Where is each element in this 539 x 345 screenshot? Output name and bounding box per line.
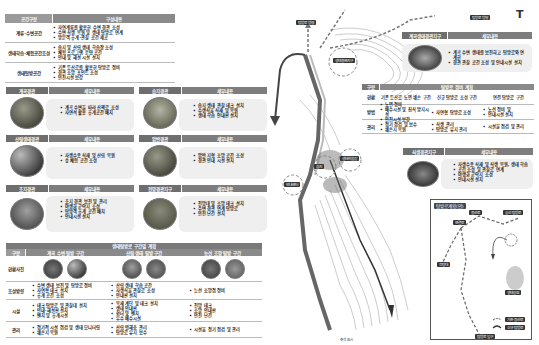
inset-label: 능선 탐방로 [503, 210, 523, 215]
inset-label: 연결로 [453, 220, 466, 225]
cell-item: 안내시설 설치 [483, 112, 534, 117]
cell-item: 시설물 정기 점검 및 관리 [189, 327, 262, 332]
cell-item: 탐방로 유지 보수 [111, 330, 184, 335]
north-arrow-icon: T [516, 8, 524, 21]
card-photo [143, 198, 177, 230]
scale-label: 축척 표시 [340, 337, 353, 342]
site-photo [122, 259, 142, 279]
col-header: 능선 조망 탐방 구간 [183, 249, 262, 256]
card-item: 경관 안내 시설 설치 [193, 158, 263, 163]
card-item: 숲 체험 공간 조성 [60, 158, 130, 163]
site-photo [201, 259, 221, 279]
top-table-row: 생태탐방공간 기존 등산로를 활용한 탐방로 정비 경관 조망 포인트 조성 안… [5, 63, 175, 83]
card-item: 경관 관찰 공간 조성 및 안내시설 설치 [448, 60, 528, 65]
right-top-card: 계곡생태경관지구세부내용 계곡 수변 생태를 보전하고 탐방로와 연계한경관 관… [402, 32, 532, 74]
card-title: 암반경관 [139, 135, 182, 142]
card-item: 자연석 활용 휴게공간 배치 [60, 110, 130, 115]
map-label: 생태경관지구 [333, 58, 355, 63]
card-item: 생태 학습 안내판 설치 [193, 113, 263, 118]
card-photo [10, 97, 44, 129]
bottom-table-header: 구분 계곡 수변 탐방 구간 산림 생태 탐방 구간 능선 조망 탐방 구간 [6, 249, 262, 256]
card-subtitle: 세부내용 [445, 148, 533, 155]
row-item: 안내 및 해설 시설 설치 [53, 55, 175, 60]
map-label: 생태학습장 [340, 156, 359, 161]
col-header: 구분 [362, 84, 380, 90]
inset-label: 등산로 [469, 210, 482, 215]
card-photo [143, 97, 177, 129]
card-viewpoint: 전망경관지구세부내용 전망대 및 조망 데크 설치주변 경관 연계 탐방로안전 … [139, 185, 267, 235]
top-table-row: 생태학습·체험공간조성 습지 및 산림 생태 학습장 조성 체험 프로그램 운영… [5, 43, 175, 63]
card-wetland: 습지경관세부내용 습지 생태 관찰 데크 설치수생식물 식재 및 복원생태 학습… [139, 87, 267, 133]
bottom-table: 생태탐방로 구간별 계획 구분 계곡 수변 탐방 구간 산림 생태 탐방 구간 … [6, 243, 262, 343]
row-label: 관리 [362, 124, 380, 130]
card-item: 계곡 수변 생태를 보전하고 탐방로와 연계한 [448, 50, 528, 60]
card-photo [408, 45, 442, 71]
cell-item: 자연형 탐방로 조성 [431, 110, 482, 115]
site-photo [67, 259, 87, 279]
cell-item: 안내판 설치 [111, 293, 184, 298]
row-label: 방법 [362, 109, 380, 115]
top-table-header-col2: 구성내용 [53, 14, 175, 23]
card-item: 안내시설 설치 [453, 177, 529, 182]
cell-item: 배수시설 및 침식 방지시설 [380, 107, 431, 117]
cell-item: 시설물 점검 및 관리 [483, 124, 534, 129]
table-row: 관리 정기적 시설 점검 및 생태 모니터링훼손지 복원 산림 병해충 관리탐방… [6, 322, 262, 338]
legend-item: 기존 등산로 [505, 317, 525, 322]
card-item: 안전 난간 설치 [193, 211, 263, 216]
card-rock: 암반경관세부내용 암반 지형 조망 공간 조성경관 안내 시설 설치 [139, 135, 267, 181]
top-table-header: 공간구분 구성내용 [5, 14, 175, 23]
route-arrow [275, 54, 305, 120]
right-table-title: 탐방로 정비 계획 [380, 84, 534, 90]
row-label: 생태학습·체험공간조성 [5, 50, 53, 56]
row-label: 현황 [362, 94, 380, 100]
card-photo [10, 198, 44, 230]
cell-item: 우수 배수시설 [111, 316, 184, 321]
inset-label: 생태공원 [505, 290, 521, 295]
top-table: 공간구분 구성내용 계류·수변공간 자연계류를 활용한 수변 경관 조성 수변 … [5, 14, 175, 84]
card-photo [407, 161, 439, 187]
top-table-row: 계류·수변공간 자연계류를 활용한 수변 경관 조성 수변 식생 복원 및 생태… [5, 23, 175, 43]
cell: 연결 탐방로 구간 [483, 95, 534, 100]
card-subtitle: 세부내용 [448, 32, 532, 39]
right-table: 구분 탐방로 정비 계획 현황 기존 등산로 노면 훼손 구간 신규 탐방로 조… [362, 84, 534, 136]
card-title: 식생경관지구 [403, 148, 445, 155]
row-label: 시설 [6, 308, 26, 314]
row-label: 계류·수변공간 [5, 30, 53, 36]
map-label: 탐방로 방향 [470, 15, 490, 20]
table-row: 방법 노면 정비배수시설 및 침식 방지시설안전시설 보강 자연형 탐방로 조성… [362, 104, 534, 120]
site-photo [146, 259, 166, 279]
card-forest: 산림생태경관세부내용 자생수종 식재 및 산림 복원숲 체험 공간 조성 [6, 135, 134, 181]
inset-label: 전망대 [437, 262, 450, 267]
card-title: 습지경관 [139, 87, 182, 94]
card-subtitle: 세부내용 [49, 87, 134, 94]
row-label: 생태탐방공간 [5, 70, 53, 76]
cell-item: 훼손지 복원 [380, 127, 431, 132]
top-table-header-col1: 공간구분 [5, 14, 53, 23]
right-card-vegetation: 식생경관지구세부내용 자생수종 식재 및 식생 복원, 생태 학습공간 조성 및… [403, 148, 533, 190]
right-table-header: 구분 탐방로 정비 계획 [362, 84, 534, 90]
inset-map: 탐방로계획(안) 등산로 능선 탐방로 연결로 전망대 생태공원 탐방로 입구 … [430, 199, 532, 340]
cell: 신규 탐방로 조성 구간 [431, 95, 482, 100]
card-photo [143, 145, 177, 177]
cell: 기존 등산로 노면 훼손 구간 [380, 95, 431, 100]
site-photo [43, 259, 63, 279]
card-title: 초지경관 [6, 185, 49, 192]
card-title: 계곡생태경관지구 [402, 32, 448, 39]
col-header: 산림 생태 탐방 구간 [105, 249, 184, 256]
row-label: 관리 [6, 327, 26, 333]
legend-item: 신규 탐방로 [505, 325, 525, 330]
table-row: 관리 정기 점검 및 보수훼손지 복원 식생 관리탐방로 유지 관리 시설물 점… [362, 120, 534, 134]
inset-label: 탐방로 입구 [475, 334, 495, 339]
card-title: 계곡경관 [6, 87, 49, 94]
row-label: 현황사진 [6, 266, 26, 272]
map-label: 습지 [314, 164, 324, 169]
cell-item: 벤치 및 휴게시설 [32, 313, 105, 318]
col-header: 계곡 수변 탐방 구간 [26, 249, 105, 256]
cell-item: 휴게 공간 조성 [32, 293, 105, 298]
cell-item: 훼손지 복원 [32, 330, 105, 335]
row-label: 조성방향 [6, 288, 26, 294]
row-item: 방문객 휴게·관찰 공간 제공 [53, 35, 175, 40]
card-title: 산림생태경관 [6, 135, 49, 142]
card-grassland: 초지경관세부내용 초지 경관 보전 및 관리야생화 군락지 조성탐방객 휴게 공… [6, 185, 134, 235]
table-row: 조성방향 수변 생태 보전 및 탐방로 정비자연형 데크 설치휴게 공간 조성 … [6, 282, 262, 300]
